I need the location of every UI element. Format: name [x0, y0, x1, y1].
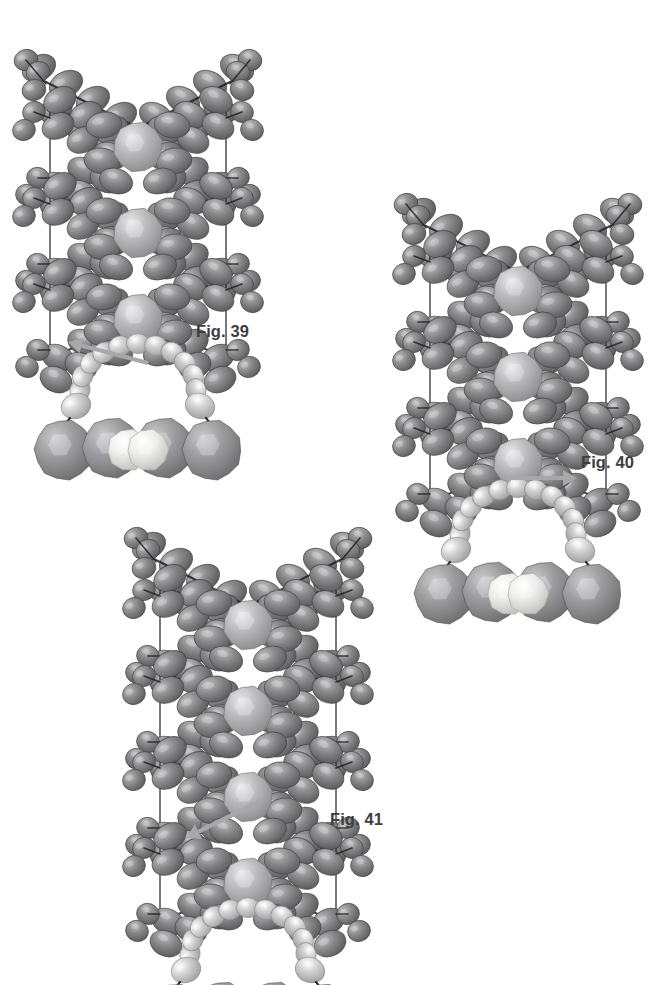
figure-fig-40 — [388, 196, 648, 606]
beadwork-diagram-fig-41 — [118, 530, 378, 980]
figure-label-fig-40: Fig. 40 — [581, 453, 634, 472]
bead-highlight — [511, 482, 519, 487]
bead-highlight — [131, 338, 139, 343]
beadwork-diagram-fig-40 — [388, 196, 648, 606]
beadwork-diagram-fig-39 — [8, 52, 268, 462]
figure-label-fig-39: Fig. 39 — [196, 322, 249, 341]
diagram-page: Fig. 39 Fig. 40 Fig. 41 — [0, 0, 672, 985]
figure-label-fig-41: Fig. 41 — [330, 810, 383, 829]
bead-highlight — [241, 902, 249, 907]
figure-fig-41 — [118, 530, 378, 980]
figure-fig-39 — [8, 52, 268, 462]
